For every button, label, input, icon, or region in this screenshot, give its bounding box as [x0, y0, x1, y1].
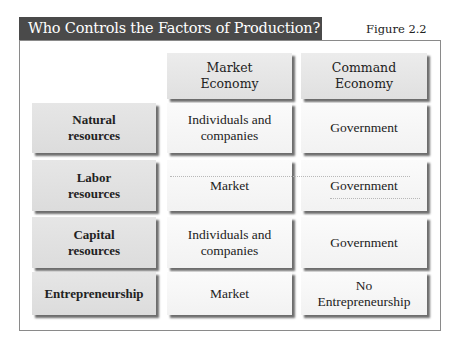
column-header-command-line1: Command — [332, 60, 396, 76]
cell-line1: Market — [210, 178, 249, 194]
dotted-guide-line — [330, 198, 420, 199]
cell-labor-market: Market — [167, 160, 292, 211]
cell-line1: Government — [330, 178, 397, 194]
cell-line2: companies — [188, 243, 272, 259]
column-header-market-line2: Economy — [200, 76, 258, 92]
dotted-guide-line — [170, 176, 410, 177]
column-header-command: Command Economy — [301, 53, 427, 99]
cell-natural-market: Individuals and companies — [167, 103, 292, 153]
row-label-line2: resources — [68, 186, 120, 202]
row-label-line2: resources — [68, 243, 120, 259]
cell-line2: companies — [188, 128, 272, 144]
cell-entrepreneurship-command: No Entrepreneurship — [301, 272, 427, 315]
row-label-line1: Capital — [68, 227, 120, 243]
row-label-line2: resources — [68, 128, 120, 144]
cell-line1: Individuals and — [188, 112, 272, 128]
row-label-capital-resources: Capital resources — [32, 217, 156, 268]
cell-line1: Government — [330, 120, 397, 136]
cell-labor-command: Government — [301, 160, 427, 211]
row-label-line1: Natural — [68, 112, 120, 128]
column-header-market: Market Economy — [167, 53, 292, 99]
column-header-command-line2: Economy — [332, 76, 396, 92]
cell-line1: Market — [210, 286, 249, 302]
row-label-line1: Labor — [68, 170, 120, 186]
row-label-entrepreneurship: Entrepreneurship — [32, 272, 156, 315]
cell-capital-market: Individuals and companies — [167, 217, 292, 268]
cell-entrepreneurship-market: Market — [167, 272, 292, 315]
cell-line2: Entrepreneurship — [318, 294, 411, 310]
cell-line1: Government — [330, 235, 397, 251]
cell-natural-command: Government — [301, 103, 427, 153]
column-header-market-line1: Market — [200, 60, 258, 76]
row-label-line1: Entrepreneurship — [44, 286, 143, 302]
cell-line1: Individuals and — [188, 227, 272, 243]
row-label-labor-resources: Labor resources — [32, 160, 156, 211]
cell-capital-command: Government — [301, 217, 427, 268]
row-label-natural-resources: Natural resources — [32, 103, 156, 153]
figure-title: Who Controls the Factors of Production? — [19, 17, 322, 40]
figure-number: Figure 2.2 — [366, 22, 427, 36]
cell-line1: No — [318, 278, 411, 294]
